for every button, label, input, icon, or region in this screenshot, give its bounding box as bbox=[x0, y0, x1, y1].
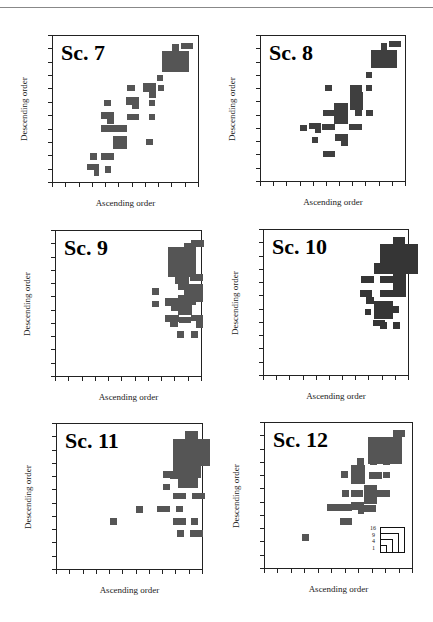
y-tick bbox=[48, 129, 53, 130]
top-rule bbox=[0, 7, 433, 8]
data-square bbox=[342, 490, 349, 497]
legend-label: 1 bbox=[372, 545, 375, 551]
y-tick bbox=[259, 282, 264, 283]
y-tick bbox=[259, 335, 264, 336]
x-tick bbox=[162, 569, 163, 574]
plot-frame: Sc. 9 bbox=[55, 230, 202, 377]
data-square bbox=[393, 290, 406, 297]
x-axis-label: Ascending order bbox=[52, 198, 199, 208]
y-tick bbox=[51, 243, 56, 244]
data-square bbox=[163, 484, 170, 490]
y-tick bbox=[260, 449, 265, 450]
data-square bbox=[177, 530, 184, 537]
data-square bbox=[383, 458, 390, 465]
x-axis-label: Ascending order bbox=[56, 585, 203, 595]
data-square bbox=[370, 458, 377, 465]
y-tick bbox=[51, 257, 56, 258]
data-square bbox=[196, 321, 203, 328]
x-tick bbox=[198, 182, 199, 187]
data-square bbox=[380, 322, 387, 329]
data-square bbox=[380, 276, 393, 283]
legend-label: 16 bbox=[370, 525, 376, 531]
data-square bbox=[176, 506, 183, 512]
y-axis-label: Descending order bbox=[22, 254, 34, 354]
data-square bbox=[364, 505, 376, 512]
y-tick bbox=[256, 154, 261, 155]
x-tick bbox=[149, 569, 150, 574]
data-square bbox=[190, 530, 203, 537]
data-square bbox=[350, 85, 362, 92]
y-tick bbox=[51, 310, 56, 311]
data-square bbox=[393, 306, 399, 313]
y-tick bbox=[256, 101, 261, 102]
y-tick bbox=[52, 529, 57, 530]
x-tick bbox=[405, 181, 406, 186]
data-square bbox=[334, 103, 348, 124]
data-square bbox=[196, 287, 203, 294]
y-axis-label: Descending order bbox=[19, 59, 31, 159]
x-tick bbox=[365, 181, 366, 186]
x-tick bbox=[145, 182, 146, 187]
data-square bbox=[360, 290, 372, 297]
data-square bbox=[350, 92, 363, 110]
y-tick bbox=[259, 229, 264, 230]
data-square bbox=[374, 301, 393, 319]
data-square bbox=[162, 51, 189, 72]
data-square bbox=[393, 430, 405, 437]
data-square bbox=[172, 44, 179, 51]
x-tick bbox=[339, 181, 340, 186]
y-tick bbox=[260, 515, 265, 516]
y-axis-label: Descending order bbox=[227, 59, 239, 159]
data-square bbox=[178, 478, 198, 488]
data-square bbox=[90, 153, 97, 160]
data-square bbox=[152, 301, 159, 307]
data-square bbox=[357, 458, 364, 465]
data-square bbox=[327, 504, 352, 511]
data-square bbox=[366, 297, 374, 304]
x-tick bbox=[189, 569, 190, 574]
y-tick bbox=[259, 295, 264, 296]
y-tick bbox=[51, 376, 56, 377]
x-tick bbox=[276, 375, 277, 380]
x-tick bbox=[82, 376, 83, 381]
x-tick bbox=[379, 181, 380, 186]
x-tick bbox=[304, 568, 305, 573]
data-square bbox=[323, 110, 334, 116]
y-tick bbox=[256, 181, 261, 182]
data-square bbox=[380, 290, 393, 297]
data-square bbox=[158, 85, 164, 91]
y-tick bbox=[48, 102, 53, 103]
y-tick bbox=[52, 463, 57, 464]
data-square bbox=[389, 41, 401, 47]
y-tick bbox=[256, 48, 261, 49]
x-tick bbox=[132, 182, 133, 187]
data-square bbox=[94, 170, 99, 176]
y-tick bbox=[48, 62, 53, 63]
x-axis-label: Ascending order bbox=[264, 584, 413, 594]
y-tick bbox=[48, 142, 53, 143]
x-tick bbox=[79, 182, 80, 187]
data-square bbox=[381, 43, 387, 50]
x-tick bbox=[65, 182, 66, 187]
y-tick bbox=[256, 115, 261, 116]
x-tick bbox=[385, 568, 386, 573]
y-tick bbox=[52, 450, 57, 451]
x-tick bbox=[303, 375, 304, 380]
x-tick bbox=[326, 181, 327, 186]
data-square bbox=[173, 439, 210, 466]
x-tick bbox=[316, 375, 317, 380]
x-tick bbox=[382, 375, 383, 380]
x-tick bbox=[201, 376, 202, 381]
x-tick bbox=[202, 569, 203, 574]
x-tick bbox=[355, 375, 356, 380]
data-square bbox=[335, 134, 348, 141]
y-tick bbox=[51, 336, 56, 337]
data-square bbox=[110, 518, 117, 525]
data-square bbox=[146, 139, 153, 145]
data-square bbox=[170, 471, 183, 479]
x-tick bbox=[277, 568, 278, 573]
data-square bbox=[366, 72, 372, 78]
x-tick bbox=[108, 376, 109, 381]
y-tick bbox=[48, 35, 53, 36]
data-square bbox=[302, 534, 309, 541]
